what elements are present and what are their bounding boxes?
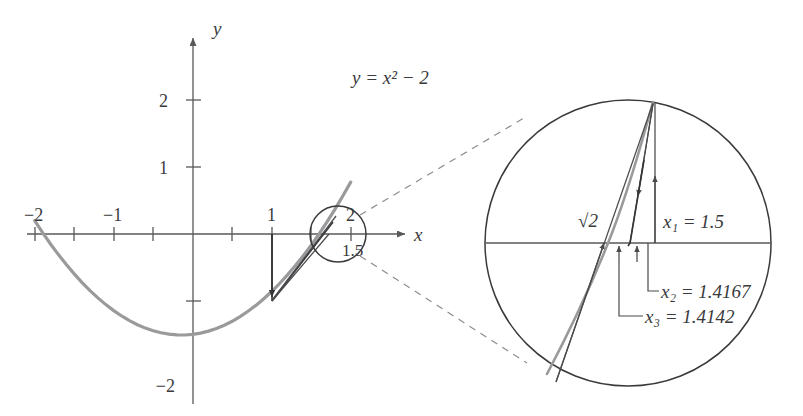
x-tick-label-1: 1 xyxy=(267,205,276,225)
main-plot: y = x² − 2 x y −2 −1 1 2 2 1 −2 1.5 xyxy=(24,18,429,404)
sqrt2-label: √2 xyxy=(578,210,598,231)
y-tick-label-neg2: −2 xyxy=(156,376,175,396)
tangent-arrow-2 xyxy=(556,243,604,382)
magnified-view: √2 x₁ = 1.5 x₂ = 1.4167 x₃ = 1.4142 xyxy=(485,100,771,386)
sqrt2-label-group: √2 xyxy=(578,210,598,231)
newton-method-figure: y = x² − 2 x y −2 −1 1 2 2 1 −2 1.5 xyxy=(0,0,803,416)
x-tick-label-neg2: −2 xyxy=(24,205,43,225)
figure-canvas: y = x² − 2 x y −2 −1 1 2 2 1 −2 1.5 xyxy=(0,0,803,416)
x3-label: x₃ = 1.4142 xyxy=(644,306,735,327)
y-tick-label-1: 1 xyxy=(159,158,168,178)
newton-ray-2 xyxy=(272,234,329,301)
x2-label: x₂ = 1.4167 xyxy=(660,281,752,302)
y-axis-label: y xyxy=(211,18,222,39)
leader-x3 xyxy=(619,262,643,316)
x-tick-label-neg1: −1 xyxy=(103,205,122,225)
connector-upper xyxy=(360,118,524,215)
leader-x2 xyxy=(648,243,659,291)
newton-ray-3 xyxy=(273,216,336,299)
y-tick-label-2: 2 xyxy=(159,91,168,111)
magnifier-connectors xyxy=(360,118,527,363)
x-axis-label: x xyxy=(413,224,423,245)
callout-value-label: 1.5 xyxy=(342,241,363,260)
magnified-parabola xyxy=(547,102,653,374)
x1-label: x₁ = 1.5 xyxy=(662,211,724,232)
equation-label: y = x² − 2 xyxy=(350,67,429,88)
